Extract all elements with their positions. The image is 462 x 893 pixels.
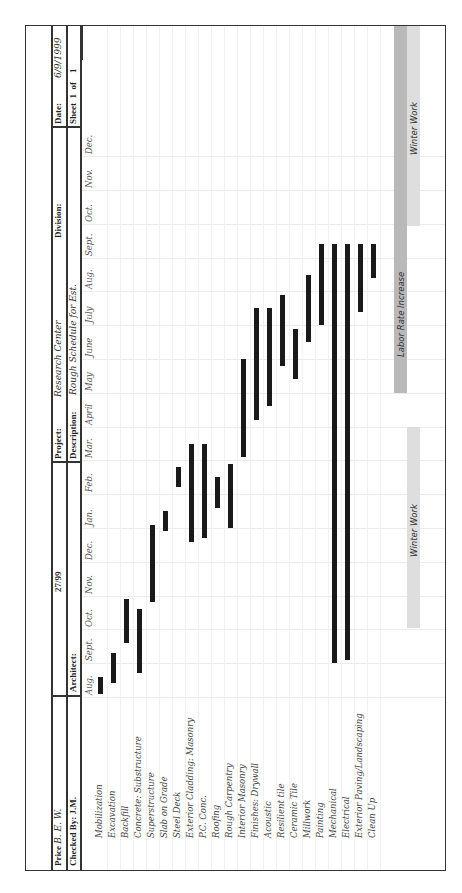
- row-gridline: [380, 26, 381, 870]
- header-divider-price: [51, 695, 81, 697]
- gantt-bar: [358, 244, 363, 312]
- task-label: Exterior Cladding: Masonry: [185, 718, 195, 838]
- row-gridline: [250, 26, 251, 870]
- task-label: Roofing: [211, 805, 221, 838]
- header-divider-project: [51, 461, 81, 463]
- price-value: B. E. W.: [53, 809, 63, 844]
- task-label: Interior Masonry: [237, 764, 247, 838]
- row-gridline: [237, 26, 238, 870]
- gantt-bar: [150, 525, 155, 603]
- description-label: Description:: [68, 412, 78, 460]
- row-gridline: [198, 26, 199, 870]
- task-label: Millwork: [302, 800, 312, 838]
- gantt-bar: [332, 244, 337, 663]
- row-gridline: [172, 26, 173, 870]
- month-label: June: [84, 338, 94, 357]
- project-value: Research Center: [53, 320, 63, 397]
- task-label: Exterior Paving/Landscaping: [354, 713, 364, 838]
- month-label: July: [84, 307, 94, 323]
- gantt-bar: [189, 444, 194, 542]
- row-gridline: [341, 26, 342, 870]
- header-divider-date: [51, 126, 81, 128]
- task-label: Acoustic: [263, 801, 273, 838]
- row-gridline: [276, 26, 277, 870]
- architect-label: Architect:: [68, 653, 78, 692]
- month-label: Nov.: [84, 575, 94, 594]
- gantt-bar: [254, 308, 259, 420]
- gantt-bar: [293, 329, 298, 380]
- month-label: Sept.: [84, 233, 94, 255]
- task-label: Electrical: [341, 797, 351, 838]
- gantt-bar: [267, 308, 272, 406]
- month-label: Feb.: [84, 474, 94, 493]
- doc-number: 27/99: [53, 571, 63, 592]
- month-label: April: [84, 404, 94, 425]
- task-label: Steel Deck: [172, 792, 182, 838]
- row-gridline: [224, 26, 225, 870]
- gantt-bar: [124, 599, 129, 643]
- row-gridline: [302, 26, 303, 870]
- project-label: Project:: [53, 428, 63, 459]
- row-gridline: [107, 26, 108, 870]
- header-sheet-mark: [80, 26, 83, 60]
- gantt-bar: [228, 464, 233, 528]
- task-label: P.C. Conc.: [198, 795, 208, 838]
- description-value: Rough Schedule for Est.: [68, 284, 78, 395]
- row-gridline: [289, 26, 290, 870]
- date-label: Date:: [53, 103, 63, 124]
- checked-by-label: Checked By: J.M.: [68, 797, 78, 866]
- checked-by-value: J.M.: [68, 797, 78, 815]
- gantt-bar: [345, 244, 350, 660]
- task-label: Resilient tile: [276, 784, 286, 838]
- month-label: Nov.: [84, 169, 94, 188]
- task-label: Concrete: Substructure: [133, 736, 143, 838]
- row-gridline: [367, 26, 368, 870]
- row-gridline: [146, 26, 147, 870]
- gantt-bar: [280, 295, 285, 366]
- row-gridline: [120, 26, 121, 870]
- gantt-bar: [202, 444, 207, 539]
- month-label: Aug.: [84, 270, 94, 290]
- winter-work-label-2: Winter Work: [409, 102, 419, 155]
- task-label: Ceramic Tile: [289, 783, 299, 838]
- gantt-bar: [319, 244, 324, 325]
- row-gridline: [263, 26, 264, 870]
- task-label: Clean Up: [367, 798, 377, 838]
- row-gridline: [315, 26, 316, 870]
- division-label: Division:: [53, 203, 63, 238]
- row-gridline: [159, 26, 160, 870]
- month-label: Dec.: [84, 540, 94, 559]
- month-label: May: [84, 372, 94, 391]
- gantt-bar: [241, 359, 246, 457]
- gantt-bar: [137, 609, 142, 673]
- sheet-label: Sheet 1 of 1: [68, 69, 78, 125]
- task-label: Mechanical: [328, 788, 338, 838]
- row-gridline: [328, 26, 329, 870]
- gantt-bar: [306, 275, 311, 343]
- task-label: Rough Carpentry: [224, 764, 234, 838]
- sheet-total: 1: [68, 69, 78, 74]
- task-label: Excavation: [107, 791, 117, 838]
- month-label: Dec.: [84, 135, 94, 154]
- row-gridline: [211, 26, 212, 870]
- price-label: Price B. E. W.: [53, 809, 63, 866]
- gantt-bar: [215, 477, 220, 507]
- task-label: Finishes: Drywall: [250, 763, 260, 838]
- month-label: Oct.: [84, 610, 94, 628]
- task-label: Backfill: [120, 806, 130, 838]
- sheet-number: 1: [68, 94, 78, 99]
- winter-work-label-1: Winter Work: [409, 504, 419, 557]
- month-label: Jan.: [84, 509, 94, 526]
- task-label: Slab on Grade: [159, 777, 169, 838]
- gantt-bar: [111, 653, 116, 683]
- gantt-bar: [163, 511, 168, 531]
- month-label: Oct.: [84, 204, 94, 222]
- header-line-inner: [80, 25, 82, 871]
- month-label: Mar.: [84, 439, 94, 459]
- gantt-bar: [176, 467, 181, 487]
- task-label: Mobilization: [94, 784, 104, 838]
- gantt-bar: [98, 677, 103, 694]
- labor-rate-label: Labor Rate Increase: [396, 272, 406, 357]
- date-value: 6/9/1999: [53, 38, 63, 78]
- task-label: Superstructure: [146, 772, 156, 838]
